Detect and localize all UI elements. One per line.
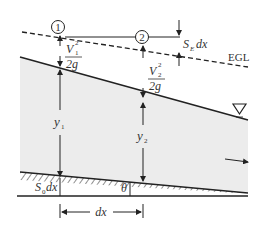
bed-drop-S: S <box>35 180 41 194</box>
velocity-head-1-sub: 1 <box>75 49 79 57</box>
velocity-head-2-sub: 2 <box>158 71 162 79</box>
depth-2-sub: 2 <box>144 137 148 145</box>
bed-drop-dx: dx <box>46 180 58 194</box>
depth-1-label: y <box>52 114 60 129</box>
section-1-label: 1 <box>55 21 61 33</box>
depth-1-sub: 1 <box>61 123 65 131</box>
velocity-head-2-V: V <box>149 64 158 78</box>
velocity-head-1-sup: 2 <box>75 39 79 47</box>
length-label: dx <box>95 205 107 219</box>
egl-label: EGL <box>228 51 250 63</box>
friction-loss-dx: dx <box>196 37 208 51</box>
channel-flow-diagram: 1 2 V 2 1 2g V 2 2 2g S E dx EGL y 1 y 2… <box>0 0 265 225</box>
friction-loss-S: S <box>183 37 189 51</box>
section-2-label: 2 <box>139 31 145 43</box>
free-surface-symbol <box>233 104 246 114</box>
velocity-head-1-V: V <box>66 42 75 56</box>
friction-loss-sub: E <box>189 45 195 53</box>
velocity-head-2-den: 2g <box>149 79 161 93</box>
depth-2-label: y <box>135 128 143 143</box>
velocity-head-2-sup: 2 <box>158 61 162 69</box>
angle-label: θ <box>121 181 127 195</box>
velocity-head-1-den: 2g <box>66 57 78 71</box>
